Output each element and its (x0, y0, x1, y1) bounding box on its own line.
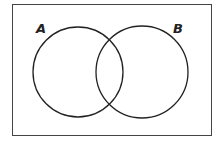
venn-diagram: A B (0, 0, 221, 143)
set-a-label: A (35, 21, 46, 36)
set-b-label: B (173, 21, 183, 36)
